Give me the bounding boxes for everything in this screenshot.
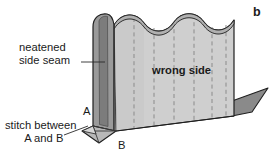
label-point-b: B xyxy=(118,139,125,152)
label-wrong-side: wrong side xyxy=(152,64,211,77)
label-neatened-line2: side seam xyxy=(19,54,70,67)
label-stitch-between: stitch between A and B xyxy=(5,119,77,145)
label-stitch-line1: stitch between xyxy=(5,119,77,131)
figure-container: neatened side seam wrong side stitch bet… xyxy=(0,0,276,158)
label-point-a: A xyxy=(83,105,90,118)
label-figure-panel-letter: b xyxy=(253,5,261,20)
fabric-face-shading xyxy=(114,15,144,131)
label-neatened-side-seam: neatened side seam xyxy=(19,41,70,67)
shadow-flap-shape xyxy=(232,88,268,116)
label-neatened-line1: neatened xyxy=(19,41,66,53)
side-seam-inner-band xyxy=(99,16,108,126)
label-stitch-line2: A and B xyxy=(5,132,77,145)
